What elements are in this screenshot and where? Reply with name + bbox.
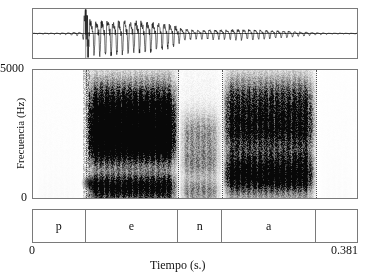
x-axis-tick-min: 0 [29, 245, 35, 256]
spectrogram-divider-a-end [316, 70, 317, 198]
speech-analysis-figure: p e n a 5000 0 Frecuencia (Hz) 0 0.381 T… [0, 0, 379, 277]
segment-cell-a[interactable]: a [222, 210, 316, 242]
segment-cell-e[interactable]: e [86, 210, 179, 242]
x-axis-tick-max: 0.381 [331, 245, 358, 256]
segment-label-p: p [56, 219, 62, 234]
y-axis-tick-min: 0 [21, 192, 27, 203]
waveform-panel [32, 8, 358, 59]
segment-cell-p[interactable]: p [33, 210, 86, 242]
spectrogram-divider-p-e [86, 70, 87, 198]
waveform-plot [33, 9, 357, 58]
segment-label-a: a [266, 219, 271, 234]
waveform-trace [33, 10, 357, 58]
x-axis-label: Tiempo (s.) [150, 260, 206, 271]
segment-label-n: n [197, 219, 203, 234]
segment-label-e: e [129, 219, 134, 234]
spectrogram-panel [32, 69, 358, 199]
spectrogram-divider-n-a [222, 70, 223, 198]
y-axis-label: Frecuencia (Hz) [15, 84, 26, 184]
phone-segmentation-tier: p e n a [32, 209, 358, 243]
segment-cell-n[interactable]: n [178, 210, 222, 242]
spectrogram-divider-e-n [178, 70, 179, 198]
segment-cell-silence[interactable] [316, 210, 357, 242]
spectrogram-image [33, 70, 357, 198]
y-axis-tick-max: 5000 [0, 63, 24, 74]
